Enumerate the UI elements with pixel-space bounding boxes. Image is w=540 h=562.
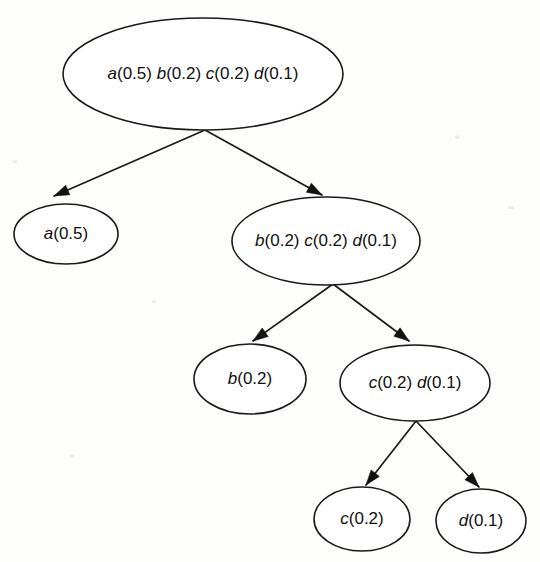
edge-cd-to-d (416, 421, 479, 487)
arrow-head-icon (253, 328, 268, 341)
node-label: b(0.2) (228, 369, 272, 388)
node-label: d(0.1) (459, 511, 503, 530)
tree-node-bcd[interactable]: b(0.2) c(0.2) d(0.1) (232, 197, 420, 285)
tree-diagram: a(0.5) b(0.2) c(0.2) d(0.1) a(0.5) b(0.2… (0, 0, 540, 562)
arrow-head-icon (394, 328, 409, 341)
edge-line (54, 130, 205, 196)
tree-node-b[interactable]: b(0.2) (194, 344, 306, 414)
node-label: b(0.2) c(0.2) d(0.1) (255, 231, 397, 250)
edge-cd-to-c (366, 421, 416, 485)
edge-root-to-a (54, 130, 205, 196)
edge-bcd-to-cd (333, 284, 409, 341)
node-label: a(0.5) b(0.2) c(0.2) d(0.1) (108, 64, 299, 83)
node-label: c(0.2) (340, 509, 383, 528)
tree-node-c[interactable]: c(0.2) (314, 487, 410, 551)
arrow-head-icon (366, 470, 379, 485)
edge-line (205, 130, 322, 195)
arrow-head-icon (54, 185, 70, 196)
tree-node-a[interactable]: a(0.5) (14, 204, 118, 264)
edge-root-to-bcd (205, 130, 322, 195)
node-label: c(0.2) d(0.1) (369, 373, 462, 392)
arrow-head-icon (306, 183, 322, 195)
tree-node-root[interactable]: a(0.5) b(0.2) c(0.2) d(0.1) (63, 18, 343, 130)
tree-diagram-canvas: a(0.5) b(0.2) c(0.2) d(0.1) a(0.5) b(0.2… (0, 0, 540, 562)
tree-node-d[interactable]: d(0.1) (436, 489, 526, 553)
nodes-group: a(0.5) b(0.2) c(0.2) d(0.1) a(0.5) b(0.2… (14, 18, 526, 553)
node-label: a(0.5) (44, 224, 88, 243)
tree-node-cd[interactable]: c(0.2) d(0.1) (340, 345, 490, 421)
edges-group (54, 130, 479, 487)
edge-bcd-to-b (253, 284, 333, 341)
